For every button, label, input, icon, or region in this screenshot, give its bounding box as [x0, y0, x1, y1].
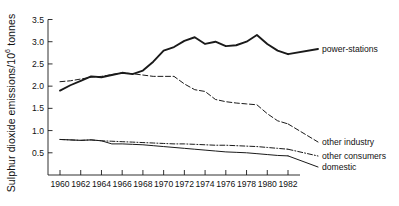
series-label-power-stations: power-stations — [322, 44, 378, 54]
x-axis-ticks: 1960196219641966196819701972197419761978… — [50, 170, 297, 189]
y-axis-ticks: 0.51.01.52.02.53.03.5 — [32, 15, 52, 158]
x-tick-label: 1966 — [113, 179, 132, 189]
series-leader-line — [288, 49, 318, 54]
data-series — [60, 35, 288, 156]
x-tick-label: 1962 — [71, 179, 90, 189]
x-tick-label: 1970 — [154, 179, 173, 189]
x-tick-label: 1960 — [50, 179, 69, 189]
series-line-other-industry — [60, 73, 288, 124]
series-line-domestic — [60, 139, 288, 155]
y-tick-label: 1.0 — [32, 126, 44, 136]
y-tick-label: 2.5 — [32, 59, 44, 69]
series-leader-line — [288, 124, 318, 142]
y-tick-label: 2.0 — [32, 81, 44, 91]
x-tick-label: 1974 — [196, 179, 215, 189]
series-labels: power-stationsother industryother consum… — [288, 44, 386, 172]
x-tick-label: 1980 — [258, 179, 277, 189]
y-tick-label: 0.5 — [32, 148, 44, 158]
x-tick-label: 1964 — [92, 179, 111, 189]
y-tick-label: 3.5 — [32, 15, 44, 25]
x-tick-label: 1968 — [133, 179, 152, 189]
series-leader-line — [288, 149, 318, 156]
y-tick-label: 3.0 — [32, 37, 44, 47]
series-leader-line — [288, 156, 318, 167]
x-tick-label: 1972 — [175, 179, 194, 189]
series-line-power-stations — [60, 35, 288, 91]
x-tick-label: 1982 — [278, 179, 297, 189]
series-label-other-consumers: other consumers — [322, 151, 386, 161]
line-chart: 0.51.01.52.02.53.03.5 196019621964196619… — [0, 0, 399, 206]
x-tick-label: 1978 — [237, 179, 256, 189]
series-label-other-industry: other industry — [322, 137, 375, 147]
series-label-domestic: domestic — [322, 162, 357, 172]
chart-container: Sulphur dioxide emissions/106 tonnes 0.5… — [0, 0, 399, 206]
y-tick-label: 1.5 — [32, 103, 44, 113]
x-tick-label: 1976 — [216, 179, 235, 189]
axes — [48, 20, 300, 176]
